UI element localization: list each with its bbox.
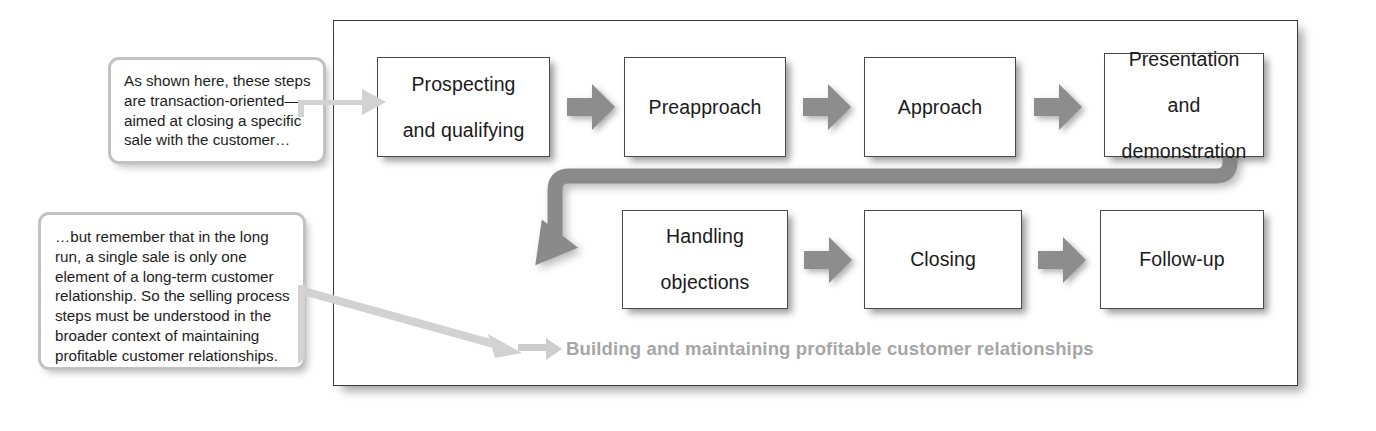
frame-caption: Building and maintaining profitable cust…	[566, 338, 1094, 360]
diagram-canvas: Prospecting and qualifying Preapproach A…	[0, 0, 1376, 431]
step-label-line: Closing	[904, 248, 982, 271]
process-box-follow-up[interactable]: Follow-up	[1100, 210, 1264, 309]
step-label-line: Prospecting	[397, 73, 531, 96]
process-box-handling-objections[interactable]: Handling objections	[622, 210, 788, 309]
callout-relationship: …but remember that in the long run, a si…	[38, 212, 306, 370]
step-label-line: and	[1116, 94, 1253, 117]
step-label-line: Handling	[655, 225, 756, 248]
callout-text: As shown here, these steps are transacti…	[124, 71, 311, 150]
caption-arrow-icon	[518, 338, 562, 364]
step-label-line: demonstration	[1116, 140, 1253, 163]
process-box-preapproach[interactable]: Preapproach	[624, 57, 786, 157]
step-label-line: Follow-up	[1133, 248, 1230, 271]
process-box-approach[interactable]: Approach	[864, 57, 1016, 157]
callout-transaction: As shown here, these steps are transacti…	[108, 57, 326, 164]
arrow-approach-to-presentation-icon	[1034, 84, 1082, 130]
process-box-closing[interactable]: Closing	[864, 210, 1022, 309]
arrow-closing-to-followup-icon	[1038, 237, 1086, 283]
callout-transaction-pointer-icon	[296, 83, 388, 123]
arrow-handling-to-closing-icon	[804, 237, 852, 283]
process-box-presentation[interactable]: Presentation and demonstration	[1104, 53, 1264, 157]
callout-relationship-pointer-icon	[296, 276, 524, 372]
arrow-prospecting-to-preapproach-icon	[567, 84, 615, 130]
step-label-line: objections	[655, 271, 756, 294]
callout-text: …but remember that in the long run, a si…	[55, 227, 290, 365]
process-box-prospecting[interactable]: Prospecting and qualifying	[377, 57, 550, 157]
step-label-line: Presentation	[1116, 48, 1253, 71]
step-label-line: Approach	[892, 96, 988, 119]
step-label-line: and qualifying	[397, 119, 531, 142]
arrow-preapproach-to-approach-icon	[803, 84, 851, 130]
step-label-line: Preapproach	[643, 96, 768, 119]
